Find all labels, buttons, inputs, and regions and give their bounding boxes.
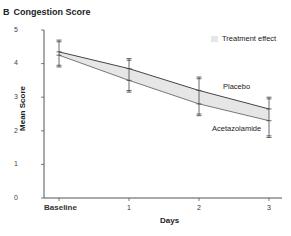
y-tick-1: 1 — [14, 160, 18, 167]
x-tick-3: 3 — [267, 204, 271, 211]
legend: Treatment effect — [211, 34, 276, 43]
x-tick-1: 1 — [127, 204, 131, 211]
legend-label: Treatment effect — [222, 34, 276, 43]
y-axis-title: Mean Score — [18, 79, 27, 139]
x-tick-baseline: Baseline — [44, 203, 77, 212]
legend-swatch — [211, 36, 218, 42]
x-axis-title: Days — [160, 216, 179, 225]
acetazolamide-label: Acetazolamide — [212, 124, 261, 133]
y-tick-3: 3 — [14, 93, 18, 100]
y-tick-4: 4 — [14, 59, 18, 66]
y-tick-5: 5 — [14, 26, 18, 33]
placebo-label: Placebo — [223, 82, 250, 91]
y-tick-2: 2 — [14, 127, 18, 134]
y-tick-0: 0 — [14, 194, 18, 201]
x-tick-2: 2 — [197, 204, 201, 211]
